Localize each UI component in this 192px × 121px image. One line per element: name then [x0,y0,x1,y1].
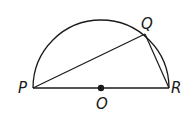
label-o: O [96,95,108,113]
center-point-o [98,85,104,91]
label-q: Q [141,15,153,33]
chord-pq [33,34,145,88]
semicircle-diagram: P Q R O [0,0,192,121]
chord-qr [145,34,169,88]
label-r: R [171,79,181,97]
label-p: P [18,79,28,97]
